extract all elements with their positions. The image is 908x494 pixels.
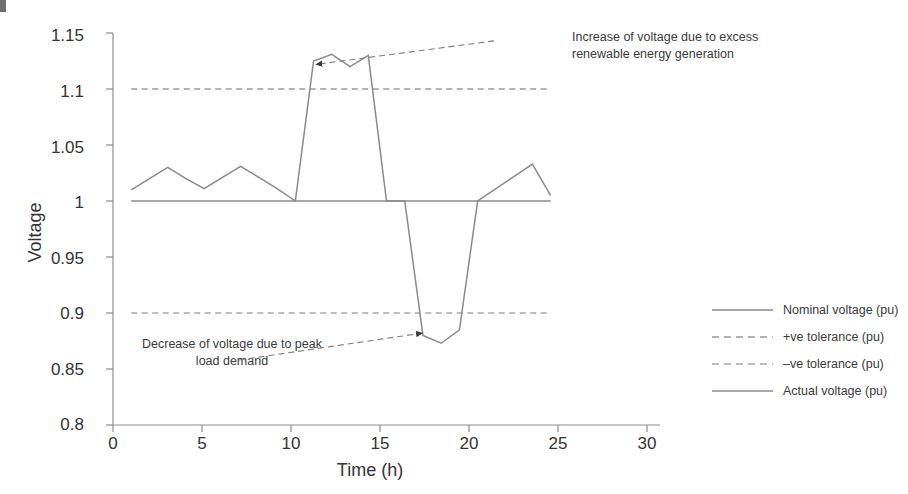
plot-canvas (0, 0, 908, 494)
series-group (131, 54, 550, 343)
legend-swatches (712, 310, 773, 391)
series-actual-voltage (131, 54, 550, 343)
increase-annotation-leader (316, 41, 494, 65)
x-tick-marks (113, 425, 647, 432)
y-tick-marks (106, 33, 113, 425)
decrease-annotation-leader (239, 333, 422, 360)
voltage-profile-chart: 1.15 1.1 1.05 1 0.95 0.9 0.85 0.8 0 5 10… (0, 0, 908, 494)
